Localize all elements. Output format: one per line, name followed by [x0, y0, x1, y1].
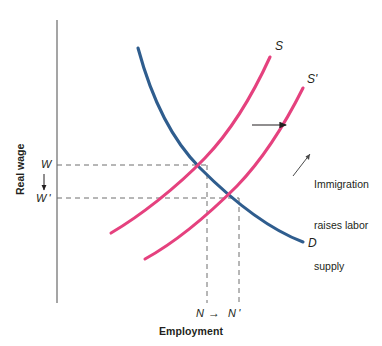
tick-label-wage-initial: W: [41, 158, 51, 171]
tick-label-employment-initial: N: [196, 307, 204, 320]
immigration-note-line-1: Immigration: [314, 178, 369, 192]
x-axis-title: Employment: [0, 325, 382, 337]
immigration-note-line-2: raises labor: [314, 219, 369, 233]
employment-shift-arrow-glyph: →: [208, 306, 220, 320]
tick-label-wage-final: W ': [36, 192, 51, 205]
supply-curve-shifted: [145, 88, 303, 259]
y-axis-title: Real wage: [14, 144, 26, 195]
immigration-note-line-3: supply: [314, 260, 369, 274]
immigration-note: Immigration raises labor supply: [314, 151, 369, 301]
demand-curve: [138, 48, 303, 242]
curve-label-supply-initial: S: [275, 39, 283, 53]
curve-label-supply-shifted: S': [307, 72, 317, 86]
economics-figure: Real wage Employment W W ' N → N ' S S' …: [0, 0, 382, 346]
supply-curve-initial: [111, 57, 270, 233]
tick-label-employment-final: N ': [228, 307, 240, 320]
